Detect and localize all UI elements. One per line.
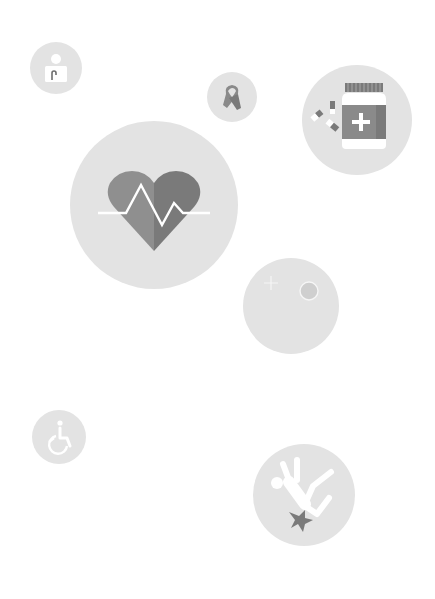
falling-person-icon xyxy=(253,444,355,546)
falling-bubble: Falling person xyxy=(253,444,355,546)
heart-bubble: Heart with pulse line xyxy=(70,121,238,289)
moon-sparkle-icon xyxy=(243,258,339,354)
night-bubble: Moon and sparkle xyxy=(243,258,339,354)
wheelchair-bubble: Wheelchair accessibility xyxy=(32,410,86,464)
ribbon-bubble: Awareness ribbon xyxy=(207,72,257,122)
awareness-ribbon-icon xyxy=(207,72,257,122)
person-icon xyxy=(30,42,82,94)
heart-pulse-icon xyxy=(70,121,238,289)
person-bubble: Person xyxy=(30,42,82,94)
medicine-bottle-icon xyxy=(302,65,412,175)
health-icons-illustration: Person Awareness ribbon Medicine bottle … xyxy=(0,0,435,599)
medicine-bubble: Medicine bottle with pills xyxy=(302,65,412,175)
wheelchair-icon xyxy=(32,410,86,464)
